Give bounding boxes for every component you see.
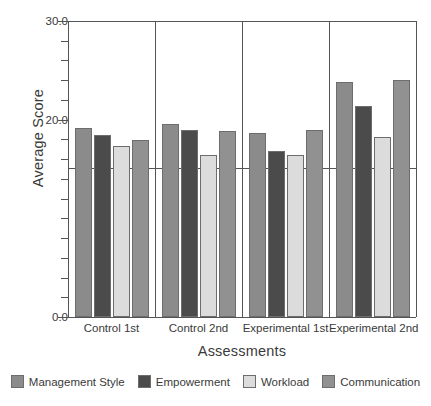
y-tick-minor [61,278,68,279]
legend-item[interactable]: Management Style [11,375,125,388]
y-tick-minor [61,179,68,180]
x-tick-label: Control 2nd [155,322,242,334]
bar [374,137,391,317]
group-separator [155,21,156,317]
bar [200,155,217,317]
y-tick-major [58,21,68,22]
legend-label: Empowerment [156,376,230,388]
x-tick-label: Control 1st [68,322,155,334]
legend: Management StyleEmpowermentWorkloadCommu… [0,375,431,388]
plot-right-edge [416,21,417,317]
x-axis-title: Assessments [68,343,416,359]
x-tick-label: Experimental 1st [242,322,329,334]
bar [132,140,149,317]
y-tick-minor [61,100,68,101]
y-tick-minor [61,60,68,61]
y-tick-major [58,120,68,121]
bar [75,128,92,317]
y-tick-minor [61,159,68,160]
y-tick-minor [61,139,68,140]
y-tick-minor [61,258,68,259]
bar [268,151,285,317]
axis-baseline [68,317,416,318]
legend-swatch-icon [138,375,151,388]
bar [249,133,266,317]
bar [306,130,323,317]
y-tick-minor [61,41,68,42]
legend-swatch-icon [322,375,335,388]
legend-swatch-icon [11,375,24,388]
legend-item[interactable]: Workload [243,375,309,388]
bar [94,135,111,317]
bar [355,106,372,317]
bar [181,130,198,317]
legend-item[interactable]: Empowerment [138,375,230,388]
bar [393,80,410,317]
bar [336,82,353,317]
y-tick-minor [61,297,68,298]
x-tick-label: Experimental 2nd [329,322,416,334]
bar [162,124,179,317]
bar [113,146,130,317]
legend-label: Communication [340,376,420,388]
y-tick-major [58,317,68,318]
y-tick-minor [61,238,68,239]
y-tick-minor [61,218,68,219]
bar [287,155,304,317]
y-tick-minor [61,199,68,200]
legend-label: Workload [261,376,309,388]
group-separator [329,21,330,317]
y-tick-minor [61,80,68,81]
legend-swatch-icon [243,375,256,388]
bar [219,131,236,317]
legend-item[interactable]: Communication [322,375,420,388]
bar-chart: Average Score 0.020.030.0 Control 1stCon… [0,0,431,406]
group-separator [242,21,243,317]
legend-label: Management Style [29,376,125,388]
